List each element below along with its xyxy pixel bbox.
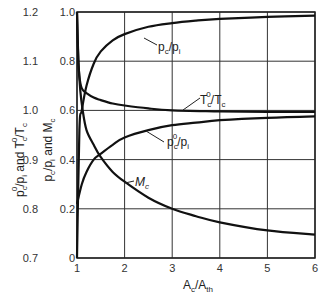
curve-p-c-p-i bbox=[77, 16, 315, 258]
inner-y-axis-label: pc/pi and Mc bbox=[41, 118, 57, 181]
inner-y-tick-label: 0 bbox=[69, 252, 75, 264]
x-axis-label: Ac/Ath bbox=[183, 278, 213, 294]
inner-y-tick-label: 1.0 bbox=[60, 6, 75, 18]
inner-y-tick-label: 0.6 bbox=[60, 104, 75, 116]
annotation-mc: Mc bbox=[125, 175, 149, 191]
svg-text:Tc0/Tc: Tc0/Tc bbox=[200, 90, 225, 109]
x-tick-label: 4 bbox=[217, 262, 223, 274]
annotation-tc0-tc: Tc0/Tc bbox=[183, 90, 225, 110]
outer-y-tick-label: 0.7 bbox=[23, 252, 38, 264]
svg-text:pc0/pi: pc0/pi bbox=[167, 132, 189, 151]
x-tick-label: 5 bbox=[264, 262, 270, 274]
annotation-pc-pi: pc/pi bbox=[144, 38, 181, 56]
curve-t-c-0-t-c bbox=[77, 12, 315, 112]
outer-y-tick-label: 1.1 bbox=[23, 55, 38, 67]
curves bbox=[77, 12, 315, 258]
svg-text:pc0/pi and Tc0/Tc: pc0/pi and Tc0/Tc bbox=[10, 123, 29, 197]
svg-text:pc/pi: pc/pi bbox=[158, 40, 181, 56]
svg-text:Mc: Mc bbox=[135, 175, 149, 191]
inner-y-tick-label: 0.8 bbox=[60, 55, 75, 67]
svg-text:pc/pi and Mc: pc/pi and Mc bbox=[41, 118, 57, 181]
annotation-pc0-pi: pc0/pi bbox=[146, 131, 189, 151]
x-tick-label: 3 bbox=[169, 262, 175, 274]
inner-y-tick-label: 0.2 bbox=[60, 203, 75, 215]
grid-lines bbox=[77, 12, 315, 258]
x-tick-label: 6 bbox=[312, 262, 318, 274]
outer-y-axis-label: pc0/pi and Tc0/Tc bbox=[10, 123, 29, 197]
outer-y-tick-label: 1.2 bbox=[23, 6, 38, 18]
chart: 12345600.20.40.60.81.00.70.80.91.01.11.2… bbox=[0, 0, 324, 299]
outer-y-tick-label: 1.0 bbox=[23, 104, 38, 116]
x-tick-label: 2 bbox=[122, 262, 128, 274]
inner-y-tick-label: 0.4 bbox=[60, 154, 75, 166]
outer-y-tick-label: 0.8 bbox=[23, 203, 38, 215]
